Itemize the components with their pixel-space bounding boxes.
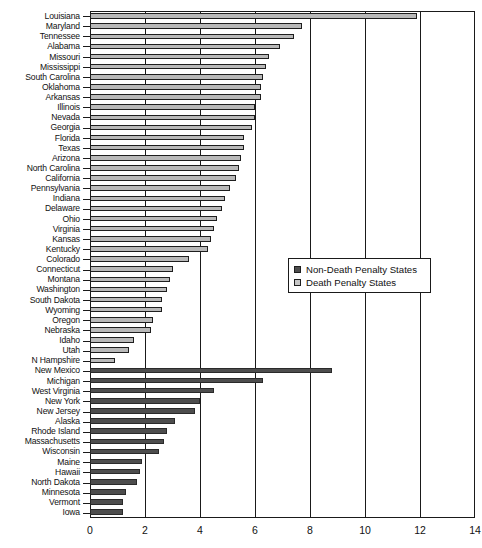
legend-label-non-death-penalty: Non-Death Penalty States	[306, 264, 417, 275]
y-label-new-mexico: New Mexico	[0, 365, 80, 375]
tick-nebraska	[83, 330, 90, 331]
y-label-minnesota: Minnesota	[0, 487, 80, 497]
bar-row	[90, 436, 475, 446]
legend-item-death-penalty: Death Penalty States	[294, 276, 426, 288]
bar-louisiana	[90, 13, 417, 19]
y-label-idaho: Idaho	[0, 335, 80, 345]
bar-florida	[90, 135, 244, 141]
bar-row	[90, 72, 475, 82]
tick-kansas	[83, 239, 90, 240]
y-label-ohio: Ohio	[0, 214, 80, 224]
tick-massachusetts	[83, 442, 90, 443]
bar-row	[90, 244, 475, 254]
bar-oklahoma	[90, 84, 261, 90]
x-tick-label-0: 0	[87, 524, 93, 536]
x-tick-label-14: 14	[469, 524, 481, 536]
y-label-louisiana: Louisiana	[0, 11, 80, 21]
tick-montana	[83, 280, 90, 281]
y-label-west-virginia: West Virginia	[0, 386, 80, 396]
bar-row	[90, 112, 475, 122]
tick-michigan	[83, 381, 90, 382]
bar-vermont	[90, 499, 123, 505]
bar-row	[90, 234, 475, 244]
y-label-utah: Utah	[0, 345, 80, 355]
bar-michigan	[90, 378, 263, 384]
bar-row	[90, 365, 475, 375]
tick-washington	[83, 290, 90, 291]
bar-tennessee	[90, 34, 294, 40]
bar-south-carolina	[90, 74, 263, 80]
y-label-mississippi: Mississippi	[0, 62, 80, 72]
bar-row	[90, 497, 475, 507]
tick-illinois	[83, 107, 90, 108]
tick-wisconsin	[83, 452, 90, 453]
tick-west-virginia	[83, 391, 90, 392]
y-label-alabama: Alabama	[0, 41, 80, 51]
tick-oklahoma	[83, 87, 90, 88]
bar-idaho	[90, 337, 134, 343]
bar-georgia	[90, 125, 252, 131]
tick-minnesota	[83, 493, 90, 494]
bar-maine	[90, 459, 142, 465]
y-label-new-york: New York	[0, 396, 80, 406]
bar-mississippi	[90, 64, 266, 70]
bar-rhode-island	[90, 428, 167, 434]
x-tick-label-10: 10	[359, 524, 371, 536]
bar-arizona	[90, 155, 241, 161]
chart-legend: Non-Death Penalty States Death Penalty S…	[288, 258, 431, 293]
y-label-vermont: Vermont	[0, 497, 80, 507]
bar-row	[90, 122, 475, 132]
bar-row	[90, 224, 475, 234]
tick-ohio	[83, 219, 90, 220]
y-label-south-dakota: South Dakota	[0, 295, 80, 305]
tick-colorado	[83, 259, 90, 260]
tick-arkansas	[83, 97, 90, 98]
tick-mississippi	[83, 67, 90, 68]
bar-north-carolina	[90, 165, 239, 171]
bar-arkansas	[90, 94, 261, 100]
tick-delaware	[83, 209, 90, 210]
tick-new-york	[83, 401, 90, 402]
x-tick-label-4: 4	[197, 524, 203, 536]
bar-row	[90, 163, 475, 173]
bar-west-virginia	[90, 388, 214, 394]
bar-row	[90, 355, 475, 365]
y-label-n-hampshire: N Hampshire	[0, 355, 80, 365]
bar-row	[90, 52, 475, 62]
legend-item-non-death-penalty: Non-Death Penalty States	[294, 263, 426, 275]
y-label-missouri: Missouri	[0, 52, 80, 62]
legend-swatch-death-penalty-icon	[294, 279, 301, 286]
y-label-pennsylvania: Pennsylvania	[0, 183, 80, 193]
bar-row	[90, 416, 475, 426]
bar-oregon	[90, 317, 153, 323]
bar-connecticut	[90, 266, 173, 272]
bar-wyoming	[90, 307, 162, 313]
y-label-tennessee: Tennessee	[0, 31, 80, 41]
bar-row	[90, 507, 475, 517]
bar-row	[90, 82, 475, 92]
y-label-connecticut: Connecticut	[0, 264, 80, 274]
bar-kansas	[90, 236, 211, 242]
y-label-nebraska: Nebraska	[0, 325, 80, 335]
tick-connecticut	[83, 270, 90, 271]
bar-row	[90, 426, 475, 436]
y-label-new-jersey: New Jersey	[0, 406, 80, 416]
y-label-north-dakota: North Dakota	[0, 477, 80, 487]
tick-nevada	[83, 117, 90, 118]
bar-iowa	[90, 509, 123, 515]
y-label-delaware: Delaware	[0, 203, 80, 213]
bar-n-hampshire	[90, 358, 115, 364]
bar-row	[90, 446, 475, 456]
y-axis-category-labels: LouisianaMarylandTennesseeAlabamaMissour…	[0, 11, 80, 518]
bar-row	[90, 315, 475, 325]
tick-maine	[83, 462, 90, 463]
bar-utah	[90, 347, 129, 353]
y-label-massachusetts: Massachusetts	[0, 436, 80, 446]
bar-hawaii	[90, 469, 140, 475]
bar-massachusetts	[90, 439, 164, 445]
bar-row	[90, 153, 475, 163]
tick-georgia	[83, 128, 90, 129]
tick-vermont	[83, 503, 90, 504]
y-label-california: California	[0, 173, 80, 183]
tick-new-jersey	[83, 412, 90, 413]
